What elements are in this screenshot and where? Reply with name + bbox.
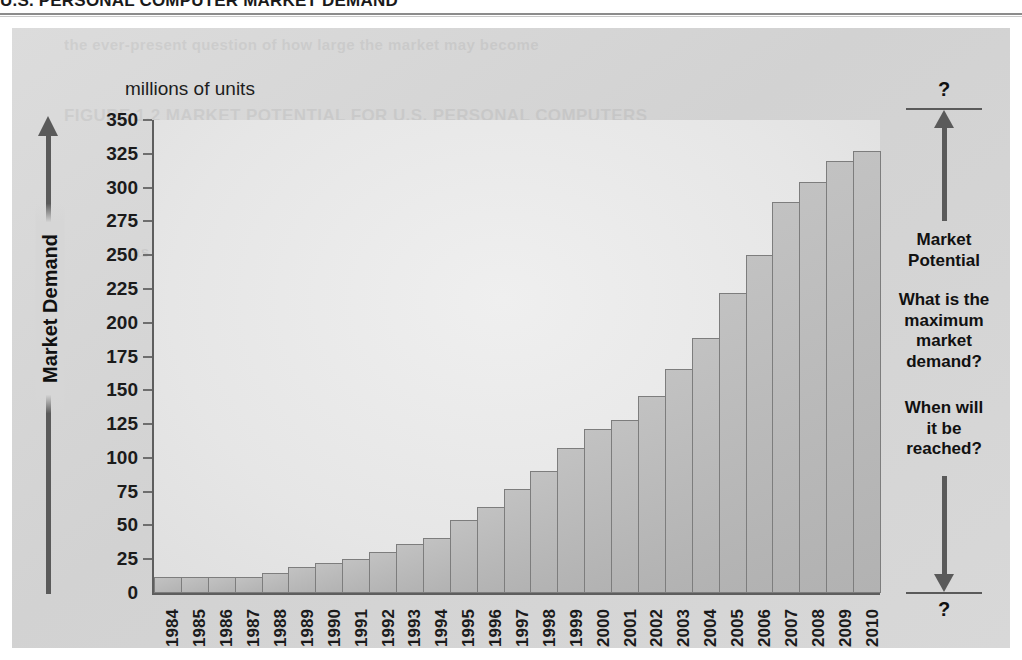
bar bbox=[154, 577, 182, 593]
y-axis-tick-label: 0 bbox=[127, 582, 138, 604]
bar bbox=[396, 544, 424, 593]
y-axis-tick-label: 100 bbox=[106, 447, 138, 469]
bar bbox=[772, 202, 800, 593]
y-axis-tick-label: 150 bbox=[106, 379, 138, 401]
x-axis-tick: 2000 bbox=[582, 598, 609, 660]
y-axis-tick-label: 25 bbox=[117, 548, 138, 570]
y-axis-tick-mark bbox=[143, 558, 152, 560]
title-divider-secondary bbox=[0, 16, 1022, 17]
market-potential-label: Market Potential bbox=[888, 230, 1000, 271]
y-axis-tick-label: 250 bbox=[106, 244, 138, 266]
bar bbox=[423, 538, 451, 593]
y-axis-tick-label: 200 bbox=[106, 312, 138, 334]
market-potential-line1: Market bbox=[917, 230, 972, 249]
bar bbox=[799, 182, 827, 593]
y-axis-tick-mark bbox=[143, 322, 152, 324]
x-axis-tick: 1995 bbox=[448, 598, 475, 660]
x-axis-tick: 1989 bbox=[286, 598, 313, 660]
bar bbox=[665, 369, 693, 593]
x-axis-tick: 2001 bbox=[609, 598, 636, 660]
y-axis-tick-mark bbox=[143, 423, 152, 425]
x-axis-tick-label: 2010 bbox=[863, 609, 883, 647]
bar bbox=[342, 559, 370, 593]
x-axis-tick: 1996 bbox=[475, 598, 502, 660]
bar bbox=[530, 471, 558, 593]
y-axis-ticks: 3503253002752502252001751501251007550250 bbox=[80, 106, 152, 606]
plot-wrapper: 3503253002752502252001751501251007550250… bbox=[80, 106, 880, 606]
units-caption: millions of units bbox=[125, 78, 255, 100]
bar bbox=[235, 577, 263, 593]
y-axis-tick-label: 175 bbox=[106, 346, 138, 368]
question-mark-top: ? bbox=[892, 78, 996, 101]
bar bbox=[262, 573, 290, 593]
bar-series bbox=[154, 120, 880, 593]
x-axis-tick: 2009 bbox=[824, 598, 851, 660]
x-axis-tick: 1999 bbox=[555, 598, 582, 660]
bar bbox=[181, 577, 209, 593]
x-axis-tick: 1985 bbox=[179, 598, 206, 660]
arrow-shaft-bottom bbox=[942, 476, 947, 576]
market-potential-line2: Potential bbox=[908, 251, 980, 270]
x-axis-tick: 2003 bbox=[663, 598, 690, 660]
bar bbox=[315, 563, 343, 593]
y-axis-tick-label: 225 bbox=[106, 278, 138, 300]
x-axis-tick: 2002 bbox=[636, 598, 663, 660]
x-axis-tick: 2007 bbox=[770, 598, 797, 660]
y-axis-tick-label: 50 bbox=[117, 514, 138, 536]
plot-area bbox=[152, 120, 880, 595]
y-axis-tick-mark bbox=[143, 220, 152, 222]
question-max-demand: What is the maximum market demand? bbox=[888, 290, 1000, 373]
x-axis-tick: 1984 bbox=[152, 598, 179, 660]
y-axis-tick-mark bbox=[143, 119, 152, 121]
y-axis-tick-label: 350 bbox=[106, 109, 138, 131]
x-axis-tick: 1998 bbox=[528, 598, 555, 660]
x-axis-tick: 1990 bbox=[313, 598, 340, 660]
x-axis-tick: 1987 bbox=[233, 598, 260, 660]
bar bbox=[746, 255, 774, 593]
y-axis-tick-label: 275 bbox=[106, 210, 138, 232]
down-arrow-icon bbox=[934, 574, 954, 592]
x-axis-tick: 1993 bbox=[394, 598, 421, 660]
y-axis-title: Market Demand bbox=[36, 204, 65, 414]
y-axis-tick-mark bbox=[143, 457, 152, 459]
x-axis-tick: 2005 bbox=[717, 598, 744, 660]
x-axis-tick: 2006 bbox=[744, 598, 771, 660]
y-axis-tick-label: 300 bbox=[106, 177, 138, 199]
bar bbox=[557, 448, 585, 593]
market-potential-annotation: ? Market Potential What is the maximum m… bbox=[892, 78, 996, 618]
x-axis-tick: 2010 bbox=[851, 598, 878, 660]
y-axis-tick-label: 125 bbox=[106, 413, 138, 435]
bar bbox=[584, 429, 612, 593]
x-axis-tick: 1994 bbox=[421, 598, 448, 660]
x-axis-tick: 1997 bbox=[502, 598, 529, 660]
y-axis-tick-mark bbox=[143, 524, 152, 526]
arrow-shaft-top bbox=[942, 126, 947, 221]
y-axis-tick-mark bbox=[143, 288, 152, 290]
x-axis-tick: 1988 bbox=[260, 598, 287, 660]
bar bbox=[450, 520, 478, 593]
y-axis-tick-label: 325 bbox=[106, 143, 138, 165]
bar bbox=[611, 420, 639, 593]
bar bbox=[288, 567, 316, 593]
bar bbox=[719, 293, 747, 593]
question-when-reached: When will it be reached? bbox=[888, 398, 1000, 460]
y-axis-tick-mark bbox=[143, 491, 152, 493]
x-axis-tick: 1986 bbox=[206, 598, 233, 660]
x-axis-tick: 1992 bbox=[367, 598, 394, 660]
page-title: U.S. PERSONAL COMPUTER MARKET DEMAND bbox=[0, 0, 1022, 11]
potential-cap-line-bottom bbox=[906, 592, 982, 594]
bar bbox=[208, 577, 236, 593]
y-axis-tick-mark bbox=[143, 187, 152, 189]
bar bbox=[826, 161, 854, 593]
x-axis-tick: 2008 bbox=[797, 598, 824, 660]
bar bbox=[638, 396, 666, 593]
x-axis-tick: 2004 bbox=[690, 598, 717, 660]
y-axis-tick-mark bbox=[143, 254, 152, 256]
y-axis-tick-mark bbox=[143, 389, 152, 391]
y-axis-tick-label: 75 bbox=[117, 481, 138, 503]
ghost-text-line-1: the ever-present question of how large t… bbox=[64, 36, 539, 53]
question-mark-bottom: ? bbox=[892, 598, 996, 621]
bar bbox=[477, 507, 505, 593]
x-axis-tick: 1991 bbox=[340, 598, 367, 660]
bar bbox=[853, 151, 881, 593]
